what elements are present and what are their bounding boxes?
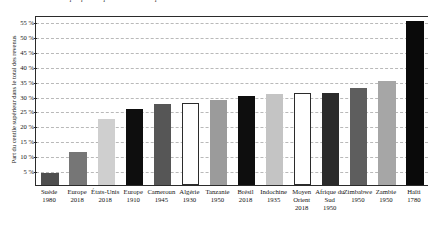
bar (350, 88, 367, 185)
chart-title: Graphique : la part du centile supérieur… (58, 0, 252, 2)
y-axis-tick-label: 40 % (20, 63, 34, 70)
chart-title-clipped: Graphique : la part du centile supérieur… (0, 0, 432, 7)
bar (322, 93, 339, 185)
x-axis-label-year: 1950 (315, 204, 345, 212)
y-axis-tick-label: 30 % (20, 93, 34, 100)
y-axis-tick-label: 10 % (20, 153, 34, 160)
y-axis-tick-label: 50 % (20, 33, 34, 40)
bar-series (36, 17, 428, 185)
y-axis-tick-labels: 5 %10 %15 %20 %25 %30 %35 %40 %45 %50 %5… (14, 14, 34, 186)
x-axis-label-year: 1780 (392, 196, 432, 204)
y-axis-tick-label: 25 % (20, 108, 34, 115)
plot-area (35, 16, 428, 186)
bar (210, 100, 227, 185)
bar (69, 152, 86, 185)
bar (126, 109, 143, 185)
y-axis-tick-label: 5 % (24, 168, 34, 175)
x-axis-tick-label: Moyen Orient2018 (287, 188, 317, 213)
bar (294, 93, 311, 185)
bar (406, 21, 423, 185)
x-axis-tick-label: Haïti1780 (392, 188, 432, 204)
y-axis-tick-label: 20 % (20, 123, 34, 130)
x-axis-label-name: Moyen Orient (287, 188, 317, 204)
y-axis-tick-label: 15 % (20, 138, 34, 145)
x-axis-label-year: 2018 (287, 204, 317, 212)
bar (182, 103, 199, 185)
bar (378, 81, 395, 185)
y-axis-tick-label: 55 % (20, 18, 34, 25)
y-axis-tick-label: 45 % (20, 48, 34, 55)
x-axis-label-name: Haïti (392, 188, 432, 196)
bar-chart: Graphique : la part du centile supérieur… (0, 0, 432, 231)
bar (98, 119, 115, 185)
bar (238, 96, 255, 185)
bar (154, 104, 171, 185)
y-axis-tick-label: 35 % (20, 78, 34, 85)
bar (41, 173, 58, 185)
bar (266, 94, 283, 185)
x-axis-tick-labels: Suède1980Europe2018États-Unis2018Europe1… (35, 188, 428, 231)
